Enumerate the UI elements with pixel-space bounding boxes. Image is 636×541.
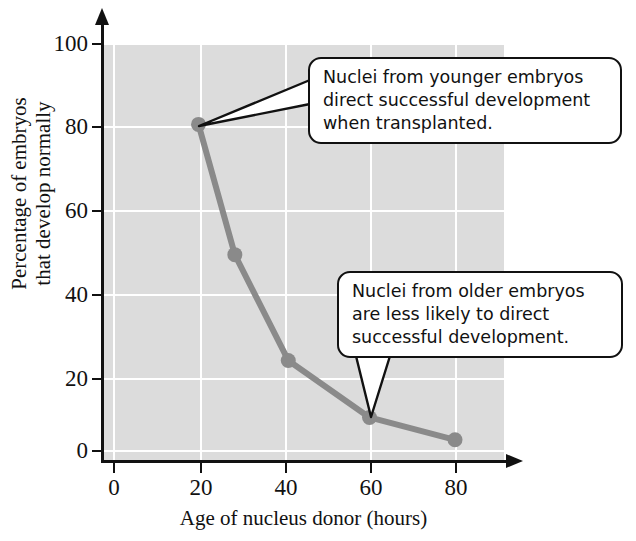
y-tick-label-20: 20: [28, 367, 88, 390]
x-tick-0: [113, 463, 115, 473]
gridline-x-40: [285, 43, 287, 462]
x-axis-title: Age of nucleus donor (hours): [103, 506, 504, 531]
y-axis-title-line-1: Percentage of embryos: [8, 44, 32, 344]
y-tick-100: [92, 43, 103, 45]
callout-2-line-3: successful development.: [352, 326, 608, 349]
y-axis-title: Percentage of embryos that develop norma…: [8, 44, 55, 344]
callout-younger-embryos: Nuclei from younger embryos direct succe…: [308, 57, 622, 144]
x-tick-60: [370, 463, 372, 473]
y-tick-0: [92, 450, 103, 452]
callout-1-line-2: direct successful development: [323, 89, 607, 112]
gridline-x-0: [113, 43, 115, 462]
y-tick-60: [92, 210, 103, 212]
y-tick-label-0: 0: [28, 439, 88, 462]
callout-1-line-1: Nuclei from younger embryos: [323, 66, 607, 89]
x-tick-label-40: 40: [256, 476, 316, 499]
x-tick-40: [285, 463, 287, 473]
callout-2-line-2: are less likely to direct: [352, 303, 608, 326]
gridline-y-100: [103, 43, 504, 45]
y-tick-20: [92, 378, 103, 380]
gridline-y-60: [103, 210, 504, 212]
y-axis-line: [101, 22, 104, 463]
x-axis-line: [101, 460, 512, 463]
x-tick-80: [455, 463, 457, 473]
y-axis-arrow-icon: [95, 8, 109, 25]
gridline-y-0: [103, 450, 504, 452]
gridline-x-20: [200, 43, 202, 462]
callout-2-line-1: Nuclei from older embryos: [352, 280, 608, 303]
gridline-y-20: [103, 378, 504, 380]
x-tick-label-80: 80: [426, 476, 486, 499]
y-axis-title-line-2: that develop normally: [32, 44, 56, 344]
y-tick-40: [92, 294, 103, 296]
y-tick-80: [92, 126, 103, 128]
x-tick-label-0: 0: [84, 476, 144, 499]
x-tick-label-60: 60: [341, 476, 401, 499]
chart-figure: 100 80 60 40 20 0 0 20 40 60 80 Age of n…: [0, 0, 636, 541]
x-tick-label-20: 20: [171, 476, 231, 499]
x-axis-arrow-icon: [506, 454, 523, 468]
callout-1-line-3: when transplanted.: [323, 112, 607, 135]
x-tick-20: [200, 463, 202, 473]
callout-older-embryos: Nuclei from older embryos are less likel…: [337, 271, 623, 358]
